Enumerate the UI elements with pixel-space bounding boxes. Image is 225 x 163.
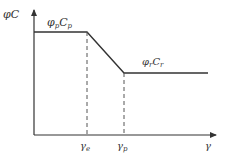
residual-phi: φ xyxy=(142,56,149,67)
residual-c-sub: r xyxy=(160,61,163,69)
y-axis-label: φC xyxy=(3,9,19,20)
residual-strength-label: φrCr xyxy=(142,57,163,69)
diagram-svg xyxy=(0,0,225,163)
gamma-e-tick-label: γe xyxy=(80,141,90,153)
residual-c: C xyxy=(152,56,160,67)
peak-c: C xyxy=(59,16,67,29)
strength-curve xyxy=(34,32,208,73)
x-axis-label: γ xyxy=(205,141,211,151)
gamma-p-sub: p xyxy=(123,145,127,153)
strength-softening-diagram: φC φpCp φrCr γe γp γ xyxy=(0,0,225,163)
gamma-e-sub: e xyxy=(86,145,90,153)
peak-c-sub: p xyxy=(68,22,72,30)
peak-strength-label: φpCp xyxy=(47,17,72,30)
gamma-p-tick-label: γp xyxy=(117,141,127,153)
peak-phi: φ xyxy=(47,16,55,29)
